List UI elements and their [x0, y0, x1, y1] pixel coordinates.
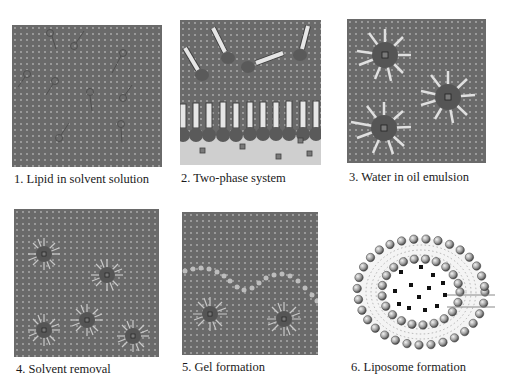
two-phase-system-illustration [180, 20, 321, 165]
liposome-illustration [350, 230, 495, 356]
lipid-in-solvent-illustration [12, 25, 162, 167]
caption-step-1: 1. Lipid in solvent solution [14, 172, 149, 187]
water-in-oil-emulsion-illustration [347, 19, 486, 163]
panel-water-in-oil-emulsion [347, 19, 486, 163]
caption-step-4: 4. Solvent removal [16, 362, 111, 377]
solvent-removal-illustration [14, 209, 159, 357]
panel-two-phase-system [180, 20, 321, 165]
caption-step-5: 5. Gel formation [182, 360, 265, 375]
panel-lipid-in-solvent [12, 25, 162, 167]
caption-step-2: 2. Two-phase system [181, 171, 286, 186]
panel-liposome-formation [350, 230, 495, 356]
panel-solvent-removal [14, 209, 159, 357]
panel-gel-formation [182, 212, 318, 355]
caption-step-3: 3. Water in oil emulsion [349, 170, 469, 185]
caption-step-6: 6. Liposome formation [351, 360, 466, 375]
gel-formation-illustration [182, 212, 318, 355]
